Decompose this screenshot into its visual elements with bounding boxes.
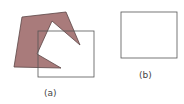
panel-b-label: (b)	[139, 70, 152, 80]
figure-canvas	[0, 0, 184, 104]
panel-a-label: (a)	[44, 88, 57, 98]
clip-window	[38, 31, 94, 77]
panel-a	[14, 12, 94, 77]
clip-window	[121, 12, 177, 58]
panel-b	[97, 0, 177, 58]
clipped-polygon	[97, 0, 163, 49]
polygon-shape	[14, 12, 80, 68]
